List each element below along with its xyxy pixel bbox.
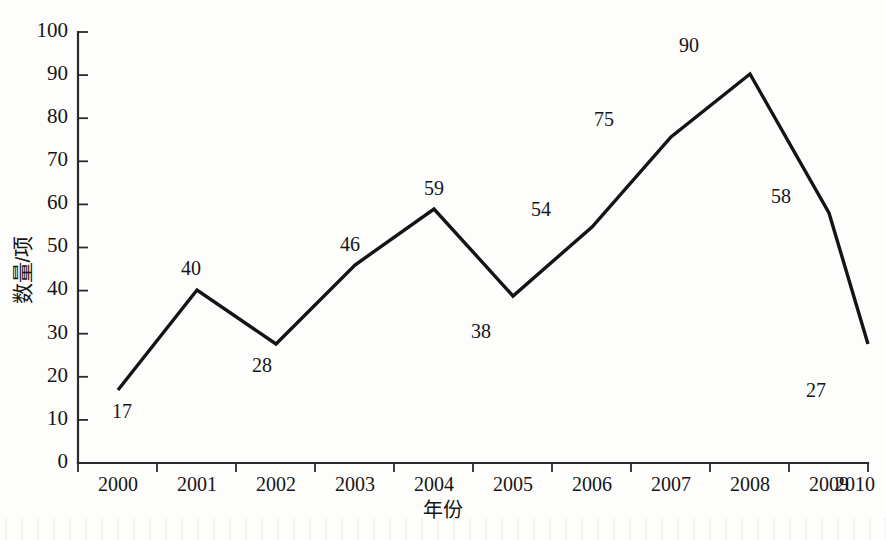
- y-tick-label: 10: [47, 406, 68, 430]
- x-tick-label: 2008: [730, 473, 770, 495]
- x-tick-label: 2001: [177, 473, 217, 495]
- x-tick-label: 2002: [256, 473, 296, 495]
- chart-page: 100 90 80 70 60 50 40 30 20 10 0 2000 20…: [0, 0, 886, 540]
- data-label: 27: [806, 379, 826, 401]
- y-tick-label: 50: [47, 233, 68, 257]
- y-tick-label: 60: [47, 190, 68, 214]
- x-tick-label: 2006: [572, 473, 612, 495]
- x-tick-label: 2000: [98, 473, 138, 495]
- line-chart: 100 90 80 70 60 50 40 30 20 10 0 2000 20…: [0, 0, 886, 540]
- data-label: 38: [471, 320, 491, 342]
- data-label: 28: [252, 354, 272, 376]
- x-tick-label: 2005: [493, 473, 533, 495]
- data-label: 90: [679, 34, 699, 56]
- data-label: 75: [594, 108, 614, 130]
- data-label: 59: [424, 177, 444, 199]
- y-tick-label: 30: [47, 320, 68, 344]
- y-tick-label: 20: [47, 363, 68, 387]
- y-tick-label: 70: [47, 147, 68, 171]
- data-label: 58: [771, 185, 791, 207]
- y-tick-label: 90: [47, 61, 68, 85]
- y-tick-label: 0: [58, 449, 69, 473]
- y-axis-title: 数量/项: [11, 236, 34, 305]
- x-tick-label: 2010: [835, 473, 875, 495]
- x-axis-title: 年份: [423, 499, 463, 521]
- x-tick-label: 2004: [414, 473, 454, 495]
- y-tick-label: 100: [37, 18, 69, 42]
- data-label: 46: [340, 233, 360, 255]
- y-tick-label: 40: [47, 276, 68, 300]
- x-tick-label: 2003: [335, 473, 375, 495]
- x-tick-label: 2007: [651, 473, 691, 495]
- y-tick-label: 80: [47, 104, 68, 128]
- data-label: 40: [181, 257, 201, 279]
- data-label: 17: [112, 400, 132, 422]
- data-label: 54: [531, 198, 551, 220]
